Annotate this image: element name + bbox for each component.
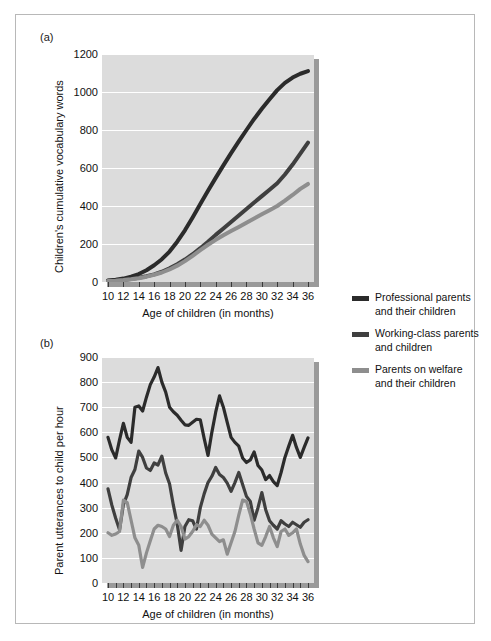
legend-label-professional-line1: Professional parents — [375, 291, 471, 305]
x-tick-mark — [108, 583, 109, 588]
x-tick-mark — [254, 583, 255, 588]
y-tick-label: 0 — [92, 276, 98, 288]
x-tick-label: 28 — [240, 290, 252, 302]
x-tick-mark — [277, 583, 278, 588]
y-tick-label: 400 — [80, 477, 98, 489]
x-tick-mark — [146, 583, 147, 588]
y-tick-label: 1000 — [74, 86, 98, 98]
series-line — [108, 500, 308, 567]
x-tick-mark — [123, 282, 124, 287]
y-tick-label: 200 — [80, 527, 98, 539]
x-tick-mark — [208, 583, 209, 588]
panel-b-x-tick-labels: 1012141618202224262830323436 — [102, 591, 314, 605]
legend-label-professional: Professional parents and their children — [375, 291, 471, 318]
x-tick-label: 30 — [256, 290, 268, 302]
x-tick-mark — [285, 583, 286, 588]
figure-frame: (a) Children's cumulative vocabulary wor… — [15, 14, 475, 624]
panel-b-plot-area — [102, 357, 314, 583]
x-tick-mark — [300, 583, 301, 588]
y-tick-label: 400 — [80, 200, 98, 212]
panel-a-x-axis-title: Age of children (in months) — [102, 307, 314, 319]
x-tick-label: 20 — [179, 290, 191, 302]
x-tick-mark — [308, 282, 309, 287]
y-tick-label: 700 — [80, 401, 98, 413]
x-tick-label: 18 — [163, 290, 175, 302]
x-tick-mark — [239, 583, 240, 588]
x-tick-mark — [231, 282, 232, 287]
x-tick-label: 16 — [148, 290, 160, 302]
series-layer — [102, 54, 314, 282]
x-tick-mark — [231, 583, 232, 588]
x-tick-label: 30 — [256, 591, 268, 603]
x-tick-mark — [216, 583, 217, 588]
legend-swatch-professional — [352, 296, 369, 301]
panel-b-x-axis-title: Age of children (in months) — [102, 608, 314, 620]
x-tick-mark — [123, 583, 124, 588]
x-tick-label: 16 — [148, 591, 160, 603]
x-tick-mark — [116, 583, 117, 588]
series-line — [108, 368, 308, 486]
series-line — [108, 143, 308, 281]
x-tick-label: 18 — [163, 591, 175, 603]
x-tick-mark — [277, 282, 278, 287]
x-tick-mark — [200, 282, 201, 287]
panel-a-x-tick-labels: 1012141618202224262830323436 — [102, 290, 314, 304]
x-tick-label: 26 — [225, 591, 237, 603]
panel-b-plot-shell — [102, 357, 318, 583]
panel-b-letter: (b) — [40, 337, 53, 349]
x-tick-mark — [262, 583, 263, 588]
x-tick-mark — [170, 282, 171, 287]
x-tick-mark — [262, 282, 263, 287]
x-tick-label: 12 — [117, 591, 129, 603]
chart-panel-a: (a) Children's cumulative vocabulary wor… — [16, 15, 474, 311]
x-tick-label: 24 — [210, 591, 222, 603]
panel-a-y-tick-labels: 020040060080010001200 — [64, 54, 98, 282]
x-tick-mark — [246, 282, 247, 287]
x-tick-mark — [131, 583, 132, 588]
x-tick-label: 28 — [240, 591, 252, 603]
x-tick-mark — [139, 282, 140, 287]
x-tick-mark — [293, 282, 294, 287]
x-tick-mark — [185, 282, 186, 287]
panel-a-plot-area — [102, 54, 314, 282]
panel-a-plot-shadow-right — [314, 59, 319, 287]
x-tick-label: 14 — [133, 591, 145, 603]
x-tick-label: 34 — [286, 591, 298, 603]
x-tick-mark — [193, 583, 194, 588]
x-tick-mark — [293, 583, 294, 588]
legend-item-professional: Professional parents and their children — [352, 291, 491, 318]
panel-b-y-tick-labels: 0100200300400500600700800900 — [64, 357, 98, 583]
x-tick-mark — [200, 583, 201, 588]
y-tick-label: 900 — [80, 351, 98, 363]
x-tick-label: 12 — [117, 290, 129, 302]
x-tick-mark — [246, 583, 247, 588]
x-tick-label: 36 — [302, 290, 314, 302]
series-line — [108, 451, 308, 550]
y-tick-label: 200 — [80, 238, 98, 250]
x-tick-label: 20 — [179, 591, 191, 603]
series-line — [108, 71, 308, 280]
panel-a-plot-shell — [102, 54, 318, 282]
legend-label-professional-line2: and their children — [375, 305, 471, 319]
x-tick-mark — [170, 583, 171, 588]
x-tick-mark — [108, 282, 109, 287]
panel-b-plot-shadow-right — [314, 362, 319, 588]
x-tick-label: 32 — [271, 290, 283, 302]
x-tick-mark — [154, 282, 155, 287]
y-tick-label: 100 — [80, 552, 98, 564]
x-tick-label: 22 — [194, 591, 206, 603]
x-tick-mark — [270, 583, 271, 588]
x-tick-mark — [139, 583, 140, 588]
x-tick-label: 24 — [210, 290, 222, 302]
x-tick-label: 26 — [225, 290, 237, 302]
x-tick-mark — [223, 583, 224, 588]
x-tick-label: 32 — [271, 591, 283, 603]
x-tick-mark — [308, 583, 309, 588]
x-tick-mark — [154, 583, 155, 588]
x-tick-mark — [216, 282, 217, 287]
y-tick-label: 600 — [80, 162, 98, 174]
panel-a-x-tick-marks — [102, 282, 314, 288]
x-tick-mark — [185, 583, 186, 588]
y-tick-label: 600 — [80, 426, 98, 438]
x-tick-label: 14 — [133, 290, 145, 302]
